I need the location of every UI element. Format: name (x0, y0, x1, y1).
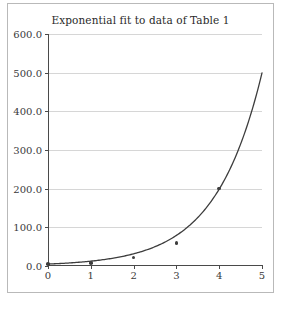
x-tick-label: 3 (173, 270, 179, 281)
x-tick-label: 5 (259, 270, 265, 281)
plot-area: 0.0100.0200.0300.0400.0500.0600.0 012345 (48, 34, 262, 266)
x-tick-label: 4 (216, 270, 222, 281)
y-tick-label: 200.0 (13, 183, 42, 194)
fit-curve (48, 34, 262, 266)
figure-frame: Exponential fit to data of Table 1 0.010… (7, 3, 274, 293)
data-point-marker (46, 262, 50, 266)
y-tick-label: 400.0 (13, 106, 42, 117)
x-tick-label: 2 (130, 270, 136, 281)
y-tick-label: 500.0 (13, 67, 42, 78)
exponential-curve-path (48, 73, 262, 264)
x-tick-label: 0 (45, 270, 51, 281)
x-tick-label: 1 (88, 270, 94, 281)
x-tick-mark (262, 265, 263, 269)
y-tick-label: 300.0 (13, 145, 42, 156)
y-tick-label: 0.0 (26, 261, 42, 272)
y-tick-label: 100.0 (13, 222, 42, 233)
data-point-marker (175, 241, 179, 245)
y-tick-label: 600.0 (13, 29, 42, 40)
data-point-marker (89, 261, 93, 265)
chart-title: Exponential fit to data of Table 1 (8, 14, 273, 26)
